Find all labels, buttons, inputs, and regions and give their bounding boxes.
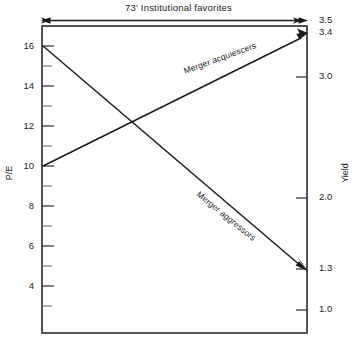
span-arrow-annotation — [41, 17, 308, 24]
series-line-merger-acquiescers — [43, 28, 308, 166]
chart-canvas — [0, 0, 357, 346]
plot-frame — [42, 26, 307, 333]
left-axis-minor-ticks — [42, 66, 52, 306]
chart-figure: 73' Institutional favorites P/E Yield 16… — [0, 0, 357, 346]
series-line-merger-aggressors — [43, 46, 308, 271]
